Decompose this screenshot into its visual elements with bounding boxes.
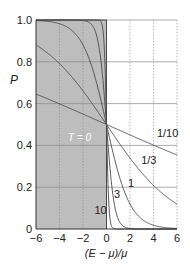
y-tick-label: 0.6: [17, 98, 32, 110]
y-tick-label: 0: [26, 223, 32, 235]
shade-layer: [36, 20, 107, 229]
t-zero-label: T = 0: [68, 132, 92, 143]
y-tick-label: 1.0: [17, 14, 32, 26]
x-tick-label: 0: [103, 232, 109, 244]
fermi-chart: −6−4−2024600.20.40.60.81.0 P (E − μ)/μ T…: [0, 0, 190, 271]
x-tick-label: 6: [174, 232, 180, 244]
y-axis-label: P: [10, 73, 18, 87]
x-tick-label: −4: [53, 232, 66, 244]
x-axis-label: (E − μ)/μ: [85, 247, 127, 259]
y-tick-label: 0.8: [17, 56, 32, 68]
curve-label: 1/3: [141, 154, 156, 166]
x-tick-label: −2: [77, 232, 90, 244]
y-tick-label: 0.4: [17, 139, 32, 151]
curve-label: 1: [128, 177, 134, 189]
shaded-region-t0: [36, 20, 107, 229]
x-tick-label: 4: [150, 232, 156, 244]
curve-label: 3: [114, 188, 120, 200]
curve-label: 10: [95, 204, 107, 216]
y-tick-label: 0.2: [17, 181, 32, 193]
x-tick-label: 2: [127, 232, 133, 244]
curve-label: 1/10: [157, 127, 178, 139]
